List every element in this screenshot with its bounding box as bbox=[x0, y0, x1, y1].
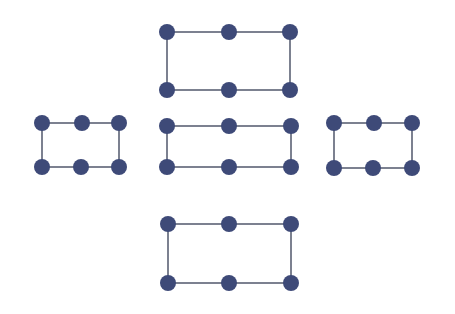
left-rectangle bbox=[34, 115, 127, 175]
node bbox=[111, 115, 127, 131]
node bbox=[160, 216, 176, 232]
node bbox=[73, 159, 89, 175]
node bbox=[283, 275, 299, 291]
node bbox=[221, 216, 237, 232]
node bbox=[366, 115, 382, 131]
node bbox=[404, 115, 420, 131]
node bbox=[221, 82, 237, 98]
node bbox=[111, 159, 127, 175]
node bbox=[221, 159, 237, 175]
node bbox=[34, 159, 50, 175]
diagram-canvas bbox=[0, 0, 455, 314]
node bbox=[282, 82, 298, 98]
node bbox=[74, 115, 90, 131]
right-rectangle bbox=[326, 115, 420, 176]
node bbox=[159, 159, 175, 175]
node bbox=[283, 216, 299, 232]
node bbox=[365, 160, 381, 176]
node bbox=[221, 275, 237, 291]
node bbox=[221, 118, 237, 134]
node bbox=[159, 118, 175, 134]
node bbox=[159, 24, 175, 40]
node bbox=[326, 160, 342, 176]
node bbox=[160, 275, 176, 291]
node bbox=[159, 82, 175, 98]
node bbox=[404, 160, 420, 176]
node bbox=[34, 115, 50, 131]
center-rectangle bbox=[159, 118, 299, 175]
node bbox=[283, 159, 299, 175]
top-rectangle bbox=[159, 24, 298, 98]
node bbox=[221, 24, 237, 40]
node bbox=[326, 115, 342, 131]
node bbox=[282, 24, 298, 40]
bottom-rectangle bbox=[160, 216, 299, 291]
node bbox=[283, 118, 299, 134]
